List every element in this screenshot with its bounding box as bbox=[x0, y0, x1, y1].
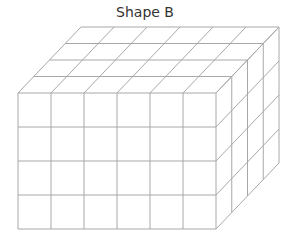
cuboid-diagram bbox=[0, 0, 290, 240]
